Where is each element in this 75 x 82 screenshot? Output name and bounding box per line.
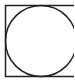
square-with-inscribed-circle: [0, 0, 74, 82]
inscribed-circle: [6, 6, 75, 77]
diagram-canvas: [0, 0, 74, 82]
